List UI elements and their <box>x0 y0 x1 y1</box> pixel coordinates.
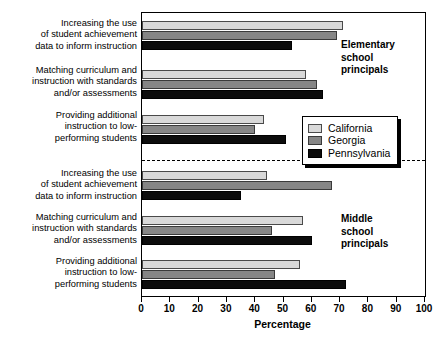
category-label-2-line1: Matching curriculum and <box>0 65 137 76</box>
x-tick-90 <box>396 296 397 302</box>
x-tick-label-80: 80 <box>352 303 382 314</box>
bar-g5-pennsylvania <box>142 236 312 245</box>
category-label-4-line1: Increasing the use <box>0 168 137 179</box>
bar-g3-pennsylvania <box>142 135 286 144</box>
annotation-middle: Middle school principals <box>341 213 431 251</box>
bar-g6-pennsylvania <box>142 280 346 289</box>
legend-swatch-pennsylvania <box>308 149 322 158</box>
x-tick-label-10: 10 <box>154 303 184 314</box>
category-label-6: Providing additional instruction to low-… <box>0 256 137 290</box>
bar-g4-georgia <box>142 181 332 190</box>
legend-item-georgia[interactable]: Georgia <box>308 135 390 146</box>
category-label-2: Matching curriculum and instruction with… <box>0 65 137 99</box>
bar-g2-california <box>142 70 306 79</box>
plot-area: Elementary school principals Middle scho… <box>141 12 426 297</box>
category-label-3: Providing additional instruction to low-… <box>0 110 137 144</box>
category-label-6-line1: Providing additional <box>0 256 137 267</box>
category-label-6-line2: instruction to low- <box>0 267 137 278</box>
category-label-4: Increasing the use of student achievemen… <box>0 168 137 202</box>
bar-g4-california <box>142 171 267 180</box>
category-label-4-line2: of student achievement <box>0 179 137 190</box>
x-axis-title: Percentage <box>141 318 424 330</box>
bar-g2-pennsylvania <box>142 90 323 99</box>
legend-label-california: California <box>328 123 372 134</box>
legend[interactable]: California Georgia Pennsylvania <box>302 116 398 165</box>
x-tick-label-50: 50 <box>268 303 298 314</box>
annotation-middle-line2: school <box>341 226 431 239</box>
bar-g6-georgia <box>142 270 275 279</box>
annotation-elementary-line1: Elementary <box>341 39 431 52</box>
bar-g1-california <box>142 21 343 30</box>
annotation-middle-line1: Middle <box>341 213 431 226</box>
category-label-3-line3: performing students <box>0 133 137 144</box>
category-label-5-line3: and/or assessments <box>0 235 137 246</box>
category-label-1: Increasing the use of student achievemen… <box>0 18 137 52</box>
category-label-3-line2: instruction to low- <box>0 121 137 132</box>
annotation-elementary: Elementary school principals <box>341 39 431 77</box>
category-label-4-line3: data to inform instruction <box>0 191 137 202</box>
x-tick-10 <box>169 296 170 302</box>
legend-label-pennsylvania: Pennsylvania <box>328 148 390 159</box>
bar-g1-georgia <box>142 31 337 40</box>
x-tick-label-70: 70 <box>324 303 354 314</box>
legend-label-georgia: Georgia <box>328 135 365 146</box>
bar-g5-georgia <box>142 226 272 235</box>
x-tick-80 <box>367 296 368 302</box>
annotation-middle-line3: principals <box>341 238 431 251</box>
x-tick-30 <box>226 296 227 302</box>
legend-item-pennsylvania[interactable]: Pennsylvania <box>308 148 390 159</box>
annotation-elementary-line2: school <box>341 52 431 65</box>
x-tick-0 <box>141 296 142 302</box>
x-tick-70 <box>339 296 340 302</box>
bar-g5-california <box>142 216 303 225</box>
bar-g6-california <box>142 260 300 269</box>
x-axis: 0 10 20 30 40 50 60 70 80 90 100 Percent… <box>141 296 424 342</box>
x-tick-label-20: 20 <box>183 303 213 314</box>
category-label-1-line2: of student achievement <box>0 29 137 40</box>
x-tick-label-100: 100 <box>409 303 435 314</box>
bar-chart: Increasing the use of student achievemen… <box>0 0 435 345</box>
category-label-1-line3: data to inform instruction <box>0 41 137 52</box>
category-label-2-line3: and/or assessments <box>0 88 137 99</box>
category-label-3-line1: Providing additional <box>0 110 137 121</box>
bar-g2-georgia <box>142 80 317 89</box>
legend-swatch-california <box>308 124 322 133</box>
category-label-5: Matching curriculum and instruction with… <box>0 212 137 246</box>
x-tick-50 <box>283 296 284 302</box>
x-tick-100 <box>424 296 425 302</box>
bar-g3-georgia <box>142 125 255 134</box>
category-label-5-line2: instruction with standards <box>0 223 137 234</box>
category-label-6-line3: performing students <box>0 279 137 290</box>
annotation-elementary-line3: principals <box>341 64 431 77</box>
x-tick-60 <box>311 296 312 302</box>
x-tick-label-0: 0 <box>126 303 156 314</box>
x-tick-label-30: 30 <box>211 303 241 314</box>
x-tick-label-40: 40 <box>239 303 269 314</box>
bar-g3-california <box>142 115 264 124</box>
legend-swatch-georgia <box>308 136 322 145</box>
bar-g4-pennsylvania <box>142 191 241 200</box>
category-label-1-line1: Increasing the use <box>0 18 137 29</box>
legend-item-california[interactable]: California <box>308 123 390 134</box>
bar-g1-pennsylvania <box>142 41 292 50</box>
x-tick-label-60: 60 <box>296 303 326 314</box>
category-label-5-line1: Matching curriculum and <box>0 212 137 223</box>
x-tick-label-90: 90 <box>381 303 411 314</box>
category-label-2-line2: instruction with standards <box>0 76 137 87</box>
x-tick-20 <box>198 296 199 302</box>
x-tick-40 <box>254 296 255 302</box>
